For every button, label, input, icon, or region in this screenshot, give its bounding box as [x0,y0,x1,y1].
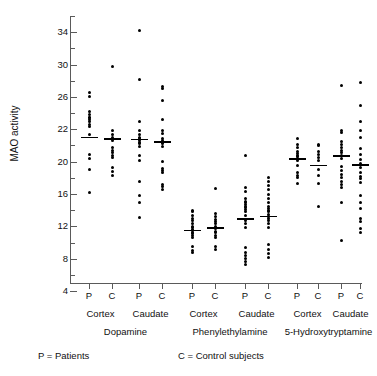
y-tick-label: 16 [42,189,68,198]
data-point [244,226,247,229]
data-point [88,95,91,98]
data-point [296,146,299,149]
data-point [359,81,362,84]
y-tick-minor [70,16,75,17]
x-group-label: C [152,290,172,301]
x-tick [245,283,246,289]
data-point [161,87,164,90]
y-tick-minor [70,178,75,179]
data-point [359,177,362,180]
x-group-label: C [102,290,122,301]
mean-bar [289,158,306,160]
data-point [111,156,114,159]
x-tick [268,283,269,289]
x-group-label: P [129,290,149,301]
data-point [161,132,164,135]
y-tick-major [70,65,77,66]
data-point [340,157,343,160]
data-point [267,243,270,246]
data-point [138,120,141,123]
y-tick-label: 20 [42,157,68,166]
data-point [88,91,91,94]
data-point [161,188,164,191]
x-tick [112,283,113,289]
y-tick-label: 30 [42,60,68,69]
data-point [267,180,270,183]
y-tick-minor [70,275,75,276]
y-tick-label: 4 [42,286,68,295]
mean-bar [237,218,254,220]
data-point [340,186,343,189]
data-point [138,145,141,148]
mean-bar [352,164,369,166]
data-point [267,226,270,229]
data-point [88,153,91,156]
x-tick [360,283,361,289]
data-point [138,159,141,162]
data-point [111,174,114,177]
data-point [88,191,91,194]
data-point [317,144,320,147]
data-point [359,136,362,139]
x-group-label: P [182,290,202,301]
data-point [138,194,141,197]
data-point [296,176,299,179]
y-axis-title: MAO activity [9,86,20,182]
data-point [359,207,362,210]
data-point [340,84,343,87]
mean-bar [207,227,224,229]
y-tick-major [70,226,77,227]
y-tick-major [70,162,77,163]
data-point [317,168,320,171]
mean-bar [260,216,277,218]
x-group-label: P [331,290,351,301]
data-point [267,222,270,225]
data-point [317,205,320,208]
mean-bar [81,137,98,139]
data-point [161,171,164,174]
legend-item-controls: C = Control subjects [178,350,264,361]
data-point [267,188,270,191]
mean-bar [131,139,148,141]
y-tick-major [70,129,77,130]
data-point [138,216,141,219]
y-tick-label: 22 [42,124,68,133]
mean-bar [333,155,350,157]
data-point [244,210,247,213]
data-point [340,239,343,242]
data-point [340,169,343,172]
data-point [359,220,362,223]
mean-bar [154,141,171,143]
x-group-label: P [79,290,99,301]
y-tick-label: 26 [42,92,68,101]
x-tick [341,283,342,289]
data-point [138,154,141,157]
data-point [359,129,362,132]
data-point [267,176,270,179]
data-point [88,125,91,128]
data-point [244,186,247,189]
data-point [359,120,362,123]
data-point [359,166,362,169]
x-tick [162,283,163,289]
data-point [359,201,362,204]
x-tick [318,283,319,289]
y-tick-label: 12 [42,221,68,230]
x-group-label: C [350,290,370,301]
data-point [267,197,270,200]
y-tick-major [70,194,77,195]
data-point [214,236,217,239]
y-tick-major [70,97,77,98]
x-region-label: Caudate [316,308,377,319]
data-point [296,137,299,140]
data-point [267,184,270,187]
y-tick-major [70,291,77,292]
y-axis-tick-labels: 3430262220161284 [38,0,68,283]
data-point [359,194,362,197]
data-point [359,158,362,161]
x-tick [139,283,140,289]
data-point [317,174,320,177]
x-tick [297,283,298,289]
data-point [88,168,91,171]
